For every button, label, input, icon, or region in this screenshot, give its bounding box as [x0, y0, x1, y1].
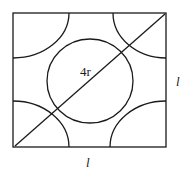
corner-atom-bottom-right [110, 101, 180, 174]
corner-atom-top-left [0, 0, 69, 58]
fcc-face-diagram: 4r l l [0, 0, 180, 174]
diagonal-label: 4r [80, 64, 92, 79]
bottom-edge-label: l [86, 155, 90, 170]
face-diagonal-line [15, 14, 165, 146]
center-atom [47, 39, 133, 123]
corner-atom-bottom-left [0, 101, 69, 174]
right-edge-label: l [176, 74, 180, 89]
corner-atom-top-right [113, 0, 180, 58]
